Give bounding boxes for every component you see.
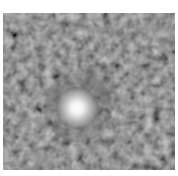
bright-source-core — [55, 86, 99, 130]
astronomical-image — [3, 13, 175, 170]
